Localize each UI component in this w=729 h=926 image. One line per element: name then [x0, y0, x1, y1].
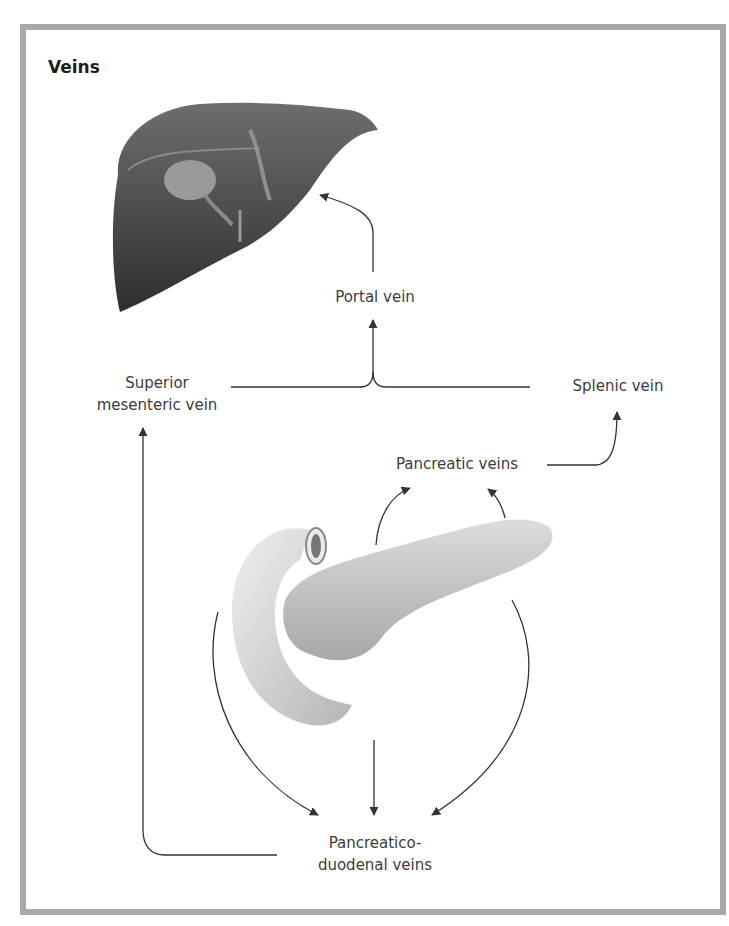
pd-line1: Pancreatico- — [300, 832, 450, 854]
label-superior-mesenteric-vein: Superior mesenteric vein — [82, 372, 232, 416]
diagram-canvas — [0, 0, 729, 926]
arrow-pancreas-to-pancreatic-left — [376, 488, 410, 545]
arrow-pancreas-to-pd-right — [432, 600, 529, 815]
pancreas-duodenum-illustration — [232, 519, 553, 725]
pancreatic-veins-text: Pancreatic veins — [396, 455, 518, 473]
splenic-vein-text: Splenic vein — [573, 377, 664, 395]
line-smv-to-merge — [231, 372, 373, 387]
liver-illustration — [113, 103, 378, 312]
label-pancreaticoduodenal-veins: Pancreatico- duodenal veins — [300, 832, 450, 876]
pd-line2: duodenal veins — [300, 854, 450, 876]
figure-title: Veins — [48, 57, 100, 77]
label-pancreatic-veins: Pancreatic veins — [372, 453, 542, 475]
arrow-pancreas-to-pancreatic-right — [488, 489, 505, 518]
line-splenic-to-merge — [373, 372, 530, 387]
label-splenic-vein: Splenic vein — [558, 375, 678, 397]
arrow-pancreatic-to-splenic — [547, 412, 617, 465]
smv-line2: mesenteric vein — [82, 394, 232, 416]
portal-vein-text: Portal vein — [335, 288, 415, 306]
label-portal-vein: Portal vein — [320, 286, 430, 308]
arrow-portal-to-liver — [320, 195, 373, 272]
smv-line1: Superior — [82, 372, 232, 394]
